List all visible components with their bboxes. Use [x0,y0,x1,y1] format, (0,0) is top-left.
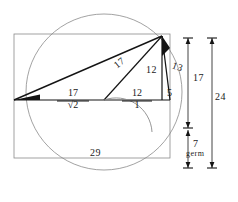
label-base-mid-numerator: 12 [122,88,152,99]
label-bottom-width: 29 [90,148,101,158]
label-base-mid-fraction: 12 1 [122,88,152,110]
label-right-dim-inner: 17 [193,73,204,83]
dim-inner-arrow-mid-up [186,122,191,128]
dim-outer-arrow-bottom [210,162,215,168]
dim-inner-arrow-top [186,38,191,44]
left-angle-marker [14,95,40,101]
label-base-left-fraction: 17 √2 [57,88,89,110]
label-vertical-leg: 12 [146,65,157,75]
label-right-dim-lower-note: germ [186,150,204,158]
figure-canvas [0,0,238,202]
label-short-leg: 5 [167,88,173,98]
apex-angle-marker [162,36,170,56]
label-right-dim-lower: 7 [193,139,199,149]
geometry-diagram: 17 12 13 5 17 √2 12 1 29 17 24 7 germ [0,0,238,202]
dim-inner-arrow-bottom [186,162,191,168]
label-right-dim-outer: 24 [215,92,226,102]
label-base-left-denominator: √2 [57,99,89,111]
dim-inner-arrow-mid-down [186,130,191,136]
label-base-mid-denominator: 1 [122,99,152,111]
dim-outer-arrow-top [210,38,215,44]
label-base-left-numerator: 17 [57,88,89,99]
